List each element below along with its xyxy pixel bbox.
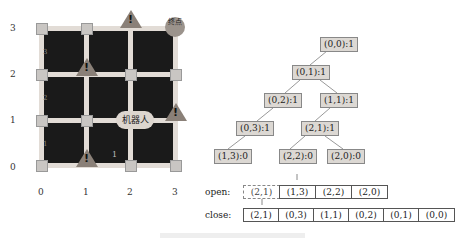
open-cell-removed: (2,1): [243, 185, 280, 199]
close-cell: (0,0): [418, 208, 455, 222]
close-cell: (0,2): [348, 208, 384, 222]
faded-caption: [160, 233, 305, 238]
tree-node: (0,0):1: [320, 37, 358, 52]
open-cell: (2,0): [351, 185, 388, 199]
close-cell: (0,1): [383, 208, 419, 222]
close-cell: (0,3): [278, 208, 314, 222]
tree-node: (1,1):1: [320, 93, 358, 108]
tree-node: (0,1):1: [292, 65, 330, 80]
open-cell: (1,3): [279, 185, 316, 199]
close-list-label: close:: [205, 210, 231, 220]
open-list-label: open:: [205, 187, 230, 197]
close-cell: (1,1): [313, 208, 349, 222]
open-cell: (2,2): [315, 185, 352, 199]
tree-node: (2,0):0: [327, 149, 365, 164]
tree-node: (1,3):0: [214, 149, 252, 164]
tree-node: (2,1):1: [301, 121, 339, 136]
close-cell: (2,1): [243, 208, 279, 222]
tree-node: (0,3):1: [236, 121, 274, 136]
tree-node: (2,2):0: [279, 149, 317, 164]
tree-node: (0,2):1: [264, 93, 302, 108]
